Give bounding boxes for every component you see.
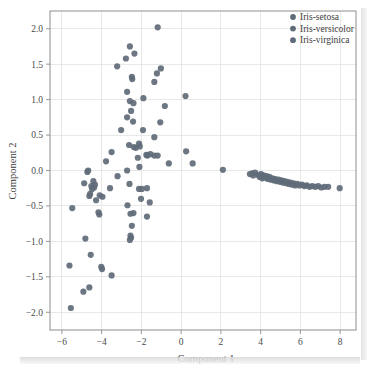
- data-point: [140, 127, 146, 133]
- y-tick-label: −1.0: [26, 237, 43, 247]
- data-point: [66, 262, 72, 268]
- data-point: [103, 158, 109, 164]
- y-axis-title: Component 2: [7, 143, 18, 200]
- data-point: [99, 266, 105, 272]
- data-point: [136, 164, 142, 170]
- y-tick-label: 1.5: [31, 60, 43, 70]
- data-point: [86, 193, 92, 199]
- data-point: [81, 180, 87, 186]
- x-tick-label: 6: [298, 337, 303, 347]
- data-point: [114, 63, 120, 69]
- legend-label: Iris-versicolor: [300, 24, 355, 34]
- data-point: [151, 79, 157, 85]
- data-point: [154, 70, 160, 76]
- data-point: [140, 95, 146, 101]
- data-point: [124, 167, 130, 173]
- data-point: [80, 289, 86, 295]
- y-tick-label: −2.0: [26, 308, 43, 318]
- data-point: [127, 43, 133, 49]
- data-point: [131, 50, 137, 56]
- y-tick-label: 2.0: [31, 24, 43, 34]
- data-point: [91, 184, 97, 190]
- data-point: [124, 114, 130, 120]
- data-point: [147, 199, 153, 205]
- data-point: [151, 134, 157, 140]
- y-tick-label: 0.0: [31, 166, 43, 176]
- y-tick-label: 0.5: [31, 130, 43, 140]
- data-point: [82, 235, 88, 241]
- data-point: [183, 148, 189, 154]
- data-point: [138, 196, 144, 202]
- x-tick-label: −2: [136, 337, 146, 347]
- data-point: [128, 108, 134, 114]
- data-point: [109, 272, 115, 278]
- data-point: [109, 149, 115, 155]
- data-point: [166, 160, 172, 166]
- legend-label: Iris-setosa: [300, 12, 340, 22]
- legend-label: Iris-virginica: [300, 35, 350, 45]
- page-edge-shadow-bottom: [20, 357, 360, 364]
- x-tick-label: 0: [179, 337, 184, 347]
- scatter-plot-figure: −6−4−202468−2.0−1.5−1.0−0.50.00.51.01.52…: [0, 0, 375, 375]
- x-tick-label: 8: [338, 337, 343, 347]
- data-point: [118, 127, 124, 133]
- data-point: [107, 185, 113, 191]
- data-point: [337, 185, 343, 191]
- data-point: [130, 118, 136, 124]
- data-point: [135, 155, 141, 161]
- data-point: [129, 223, 135, 229]
- data-point: [69, 205, 75, 211]
- data-point: [126, 181, 132, 187]
- x-tick-label: 4: [258, 337, 263, 347]
- y-tick-label: 1.0: [31, 95, 43, 105]
- data-point: [157, 119, 163, 125]
- data-point: [158, 65, 164, 71]
- data-point: [325, 184, 331, 190]
- data-point: [144, 213, 150, 219]
- data-point: [155, 24, 161, 30]
- x-tick-label: 2: [219, 337, 224, 347]
- data-point: [190, 160, 196, 166]
- data-point: [114, 173, 120, 179]
- legend-marker: [290, 26, 296, 32]
- y-tick-label: −0.5: [26, 201, 43, 211]
- data-point: [93, 197, 99, 203]
- x-tick-label: −6: [57, 337, 67, 347]
- legend-marker: [290, 14, 296, 20]
- data-point: [155, 153, 161, 159]
- data-point: [68, 305, 74, 311]
- data-point: [84, 169, 90, 175]
- data-point: [124, 202, 130, 208]
- scatter-plot-svg: −6−4−202468−2.0−1.5−1.0−0.50.00.51.01.52…: [0, 0, 375, 375]
- data-point: [137, 143, 143, 149]
- data-point: [96, 211, 102, 217]
- y-tick-label: −1.5: [26, 272, 43, 282]
- page-edge-shadow-right: [361, 8, 367, 360]
- data-point: [130, 100, 136, 106]
- legend-marker: [290, 37, 296, 43]
- data-point: [144, 185, 150, 191]
- x-tick-label: −4: [97, 337, 107, 347]
- data-point: [86, 284, 92, 290]
- data-point: [162, 103, 168, 109]
- data-point: [130, 210, 136, 216]
- data-point: [123, 55, 129, 61]
- data-point: [124, 89, 130, 95]
- data-point: [99, 194, 105, 200]
- data-point: [127, 237, 133, 243]
- data-point: [220, 167, 226, 173]
- data-point: [88, 252, 94, 258]
- data-point: [129, 76, 135, 82]
- data-point: [182, 93, 188, 99]
